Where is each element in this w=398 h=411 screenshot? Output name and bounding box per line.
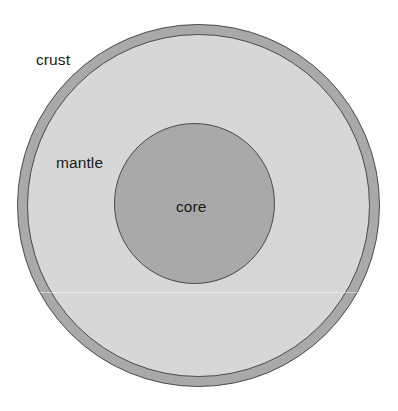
- mantle-seam-artifact: [30, 292, 367, 293]
- core-label: core: [176, 199, 207, 215]
- crust-label: crust: [36, 52, 70, 68]
- earth-layers-diagram: crust mantle core: [0, 0, 398, 411]
- mantle-label: mantle: [56, 155, 103, 171]
